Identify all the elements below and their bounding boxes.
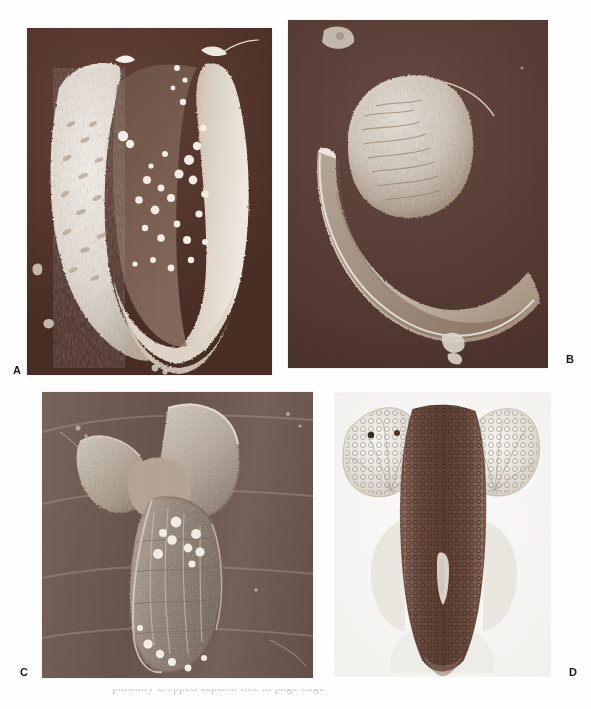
figure-plate-page: A B C D partially cropped caption line a… [0, 0, 591, 709]
micrograph-panel-b [288, 20, 548, 368]
micrograph-panel-d [335, 393, 550, 676]
cropped-caption-text: partially cropped caption line at page e… [112, 689, 325, 695]
panel-label-b: B [566, 354, 574, 365]
panel-c-artwork [42, 392, 313, 678]
panel-a-artwork [27, 28, 272, 375]
micrograph-panel-c [42, 392, 313, 678]
panel-label-c: C [20, 667, 28, 678]
panel-d-artwork [335, 393, 550, 676]
wing-left-spot-1 [368, 432, 374, 438]
panel-label-d: D [569, 667, 577, 678]
panel-label-a: A [13, 365, 21, 376]
panel-b-artwork [288, 20, 548, 368]
micrograph-panel-a [27, 28, 272, 375]
wing-left-spot-2 [394, 430, 400, 436]
cropped-caption-strip: partially cropped caption line at page e… [0, 689, 591, 709]
